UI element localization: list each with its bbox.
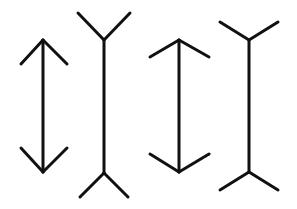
- arrow-inward-fins-2: [150, 40, 209, 172]
- fin-line: [21, 148, 43, 172]
- fin-line: [179, 40, 209, 57]
- fin-line: [21, 40, 43, 64]
- fin-line: [249, 22, 278, 40]
- fin-line: [179, 154, 209, 172]
- fin-line: [220, 172, 249, 190]
- fin-line: [150, 40, 179, 57]
- fin-line: [78, 13, 104, 40]
- fin-line: [80, 173, 104, 197]
- fin-line: [43, 40, 67, 64]
- fin-line: [104, 13, 130, 40]
- arrow-outward-fins-2: [220, 22, 278, 190]
- muller-lyer-diagram: [0, 0, 297, 209]
- fin-line: [43, 148, 67, 172]
- fin-line: [249, 172, 278, 190]
- fin-line: [104, 173, 128, 197]
- fin-line: [150, 154, 179, 172]
- fin-line: [220, 22, 249, 40]
- arrow-outward-fins-1: [78, 13, 130, 197]
- arrow-inward-fins-1: [21, 40, 67, 172]
